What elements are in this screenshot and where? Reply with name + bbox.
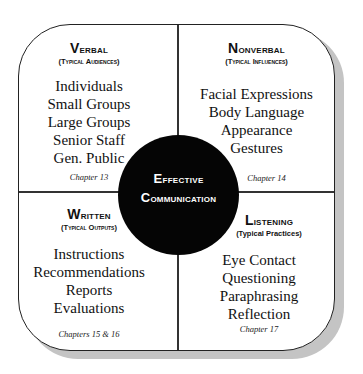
- list-item: Paraphrasing: [189, 287, 329, 305]
- chapter-reference: Chapter 17: [189, 324, 329, 334]
- title-initial: L: [245, 212, 254, 228]
- title-initial: W: [67, 206, 80, 222]
- list-item: Large Groups: [19, 113, 159, 131]
- quadrant-title: Verbal: [19, 41, 159, 56]
- hub-initial: C: [141, 190, 151, 205]
- title-rest: erbal: [79, 42, 108, 56]
- hub-rest: ffective: [162, 173, 203, 185]
- list-item: Evaluations: [19, 299, 159, 317]
- list-item: Small Groups: [19, 95, 159, 113]
- list-item: Questioning: [189, 269, 329, 287]
- quadrant-item-list: Eye Contact Questioning Paraphrasing Ref…: [189, 243, 329, 323]
- quadrant-subtitle: (Typical Influences): [179, 57, 334, 67]
- list-item: Body Language: [179, 103, 334, 121]
- title-initial: N: [228, 40, 238, 56]
- list-item: Appearance: [179, 121, 334, 139]
- title-rest: ritten: [81, 208, 111, 222]
- title-rest: onverbal: [238, 42, 285, 56]
- list-item: Reports: [19, 281, 159, 299]
- list-item: Instructions: [19, 245, 159, 263]
- quadrant-header: Nonverbal (Typical Influences): [179, 41, 334, 67]
- center-hub-circle: Effective Communication: [118, 135, 239, 255]
- list-item: Eye Contact: [189, 251, 329, 269]
- list-item: Facial Expressions: [179, 85, 334, 103]
- quadrant-item-list: Instructions Recommendations Reports Eva…: [19, 237, 159, 317]
- list-item: Senior Staff: [19, 131, 159, 149]
- quadrant-header: Verbal (Typical Audiences): [19, 41, 159, 67]
- list-item: Individuals: [19, 77, 159, 95]
- list-item: Recommendations: [19, 263, 159, 281]
- chapter-reference: Chapters 15 & 16: [19, 329, 159, 339]
- hub-rest: ommunication: [150, 192, 216, 204]
- quadrant-title: Nonverbal: [179, 41, 334, 56]
- hub-title-line-2: Communication: [114, 190, 243, 205]
- hub-title-line-1: Effective: [118, 171, 239, 186]
- quadrant-subtitle: (Typical Audiences): [19, 57, 159, 67]
- list-item: Reflection: [189, 305, 329, 323]
- title-rest: istening: [254, 214, 293, 228]
